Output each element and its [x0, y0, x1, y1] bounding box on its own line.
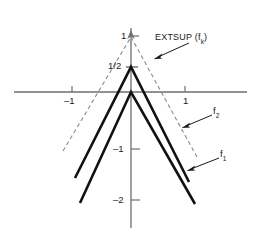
extsup-label-suffix: ) — [204, 32, 207, 42]
curve-f1 — [80, 92, 195, 204]
figure-canvas: –1 1 1 1/2 –1 –2 EXTSUP (fk) f2 f1 — [0, 0, 259, 238]
extsup-arrowhead — [154, 54, 163, 60]
curve-label-f2-subscript: 2 — [216, 112, 220, 119]
f1-arrowhead — [187, 166, 196, 171]
extsup-label-subscript: k — [201, 38, 204, 45]
tick-marks-group — [72, 36, 185, 200]
extsup-leader — [154, 43, 190, 59]
f2-leader — [182, 115, 213, 128]
f1-leader — [187, 158, 220, 171]
f2-leader-line — [186, 115, 212, 126]
y-tick-label-half: 1/2 — [108, 61, 121, 71]
extsup-label-prefix: EXTSUP (f — [155, 32, 201, 42]
curve-label-f1: f1 — [220, 149, 226, 161]
curve-label-f1-subscript: 1 — [223, 155, 227, 162]
extsup-label: EXTSUP (fk) — [155, 33, 207, 44]
f2-arrowhead — [182, 123, 191, 128]
f1-leader-line — [191, 158, 219, 169]
y-tick-label-minus1: –1 — [113, 144, 124, 154]
curve-f1-path — [80, 92, 195, 204]
curve-label-f2: f2 — [213, 106, 219, 118]
x-tick-label-minus1: –1 — [64, 96, 75, 106]
y-tick-label-minus2: –2 — [113, 195, 124, 205]
x-tick-label-plus1: 1 — [183, 96, 188, 106]
extsup-leader-line — [158, 43, 189, 57]
axes-group — [14, 28, 247, 228]
plot-svg — [0, 0, 259, 238]
y-tick-label-1: 1 — [121, 31, 126, 41]
